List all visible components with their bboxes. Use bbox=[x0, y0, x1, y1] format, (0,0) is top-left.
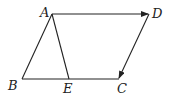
segment-dc bbox=[119, 14, 149, 78]
label-c: C bbox=[117, 81, 127, 96]
label-b: B bbox=[7, 78, 18, 93]
label-d: D bbox=[151, 6, 163, 21]
parallelogram-diagram: A D B E C bbox=[0, 0, 169, 97]
label-a: A bbox=[39, 5, 49, 20]
label-e: E bbox=[62, 81, 73, 96]
segment-ae bbox=[52, 14, 69, 79]
segment-ab bbox=[22, 14, 52, 79]
